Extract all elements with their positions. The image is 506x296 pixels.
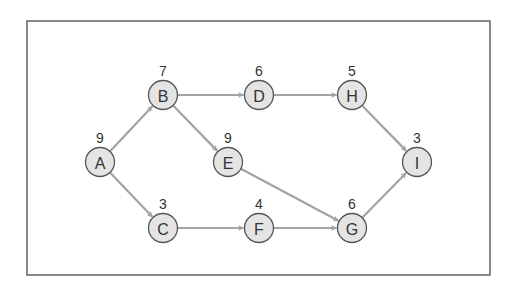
node-weight: 3 (413, 130, 421, 146)
node-label: I (415, 155, 419, 172)
node-weight: 4 (255, 196, 263, 212)
node-label: G (346, 221, 358, 238)
node-weight: 9 (96, 130, 104, 146)
graph-diagram: A9B7C3D6E9F4G6H5I3 (0, 0, 506, 296)
node-label: E (223, 155, 234, 172)
node-label: H (346, 88, 358, 105)
node-weight: 5 (348, 63, 356, 79)
node-label: A (95, 155, 106, 172)
node-weight: 7 (159, 63, 167, 79)
node-weight: 9 (224, 130, 232, 146)
node-label: F (254, 221, 264, 238)
node-weight: 6 (348, 196, 356, 212)
node-label: B (158, 88, 169, 105)
node-label: C (157, 221, 169, 238)
node-weight: 3 (159, 196, 167, 212)
node-weight: 6 (255, 63, 263, 79)
node-label: D (253, 88, 265, 105)
